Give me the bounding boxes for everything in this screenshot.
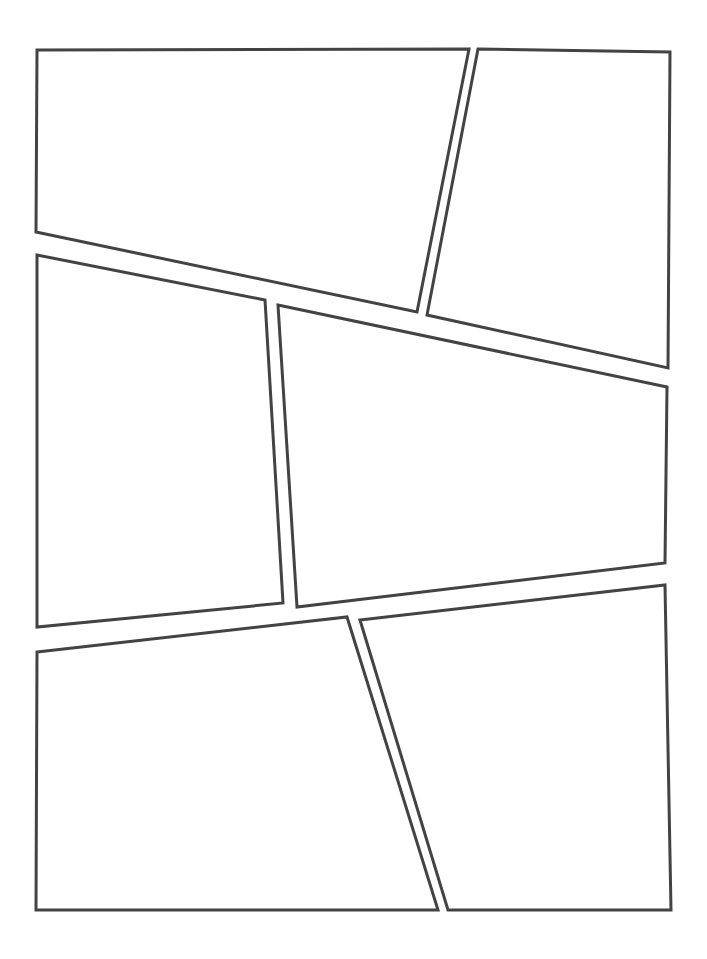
comic-panel-3[interactable]: [37, 255, 283, 627]
comic-page: [0, 0, 707, 959]
panel-canvas: [0, 0, 707, 959]
